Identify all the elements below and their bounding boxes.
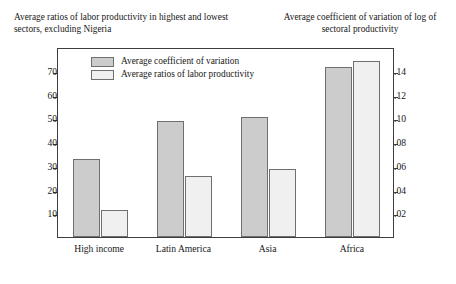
bar-africa-cov [325, 67, 352, 237]
bar-high-income-cov [73, 159, 100, 237]
bar-asia-cov [241, 117, 268, 237]
bar-africa-ratio [353, 61, 380, 237]
category-label: Asia [259, 243, 277, 254]
bar-high-income-ratio [101, 210, 128, 237]
chart-right-axis-title: Average coefficient of variation of log … [272, 12, 448, 35]
right-axis-tick-label: .08 [394, 138, 406, 148]
bar-latin-america-ratio [185, 176, 212, 237]
right-axis-tick-label: .10 [394, 114, 406, 124]
bar-latin-america-cov [157, 121, 184, 237]
left-axis-tick-label: 70 [0, 67, 57, 77]
category-label: High income [74, 243, 124, 254]
category-label: Latin America [156, 243, 211, 254]
left-axis-tick-label: 40 [0, 138, 57, 148]
plot-area [58, 49, 393, 237]
right-axis-tick-label: .12 [394, 91, 406, 101]
left-axis-tick-label: 10 [0, 209, 57, 219]
category-label: Africa [340, 243, 365, 254]
bar-asia-ratio [269, 169, 296, 237]
chart-left-axis-title: Average ratios of labor productivity in … [14, 12, 254, 35]
right-axis-tick-label: .14 [394, 67, 406, 77]
right-axis-tick-label: .02 [394, 209, 406, 219]
plot-frame: Average coefficient of variation Average… [57, 48, 394, 238]
right-axis-tick-label: .04 [394, 186, 406, 196]
chart-figure: Average ratios of labor productivity in … [0, 0, 456, 284]
right-axis-tick-label: .06 [394, 162, 406, 172]
left-axis-tick-label: 50 [0, 114, 57, 124]
left-axis-tick-label: 30 [0, 162, 57, 172]
left-axis-tick-label: 60 [0, 91, 57, 101]
left-axis-tick-label: 20 [0, 186, 57, 196]
